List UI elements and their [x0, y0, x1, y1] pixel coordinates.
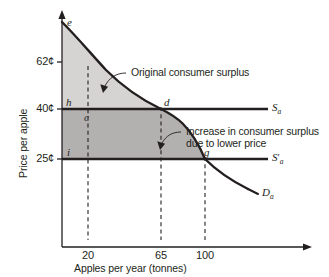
- annotation-increase-surplus: Increase in consumer surplus due to lowe…: [186, 126, 319, 150]
- curve-label-supply-new: S′a: [272, 151, 283, 167]
- y-axis-title: Price per apple: [18, 109, 30, 178]
- supply-new-subscript: a: [280, 157, 284, 166]
- y-tick-label-25: 25¢: [26, 152, 54, 164]
- point-label-h: h: [66, 96, 72, 108]
- annotation-increase-surplus-line2: due to lower price: [186, 138, 319, 150]
- x-axis-title: Apples per year (tonnes): [74, 263, 187, 275]
- annotation-original-surplus: Original consumer surplus: [131, 67, 249, 79]
- economics-figure: 62¢ 40¢ 25¢ Price per apple 20 65 100 Ap…: [0, 0, 329, 277]
- curve-label-demand: Da: [262, 186, 274, 202]
- y-axis-arrowhead: [58, 10, 65, 19]
- y-tick-label-62: 62¢: [26, 55, 54, 67]
- demand-letter: D: [262, 186, 270, 198]
- x-axis-arrowhead: [303, 243, 312, 250]
- x-tick-label-100: 100: [189, 249, 221, 261]
- x-tick-label-65: 65: [146, 249, 176, 261]
- demand-label-leader: [248, 189, 258, 194]
- point-label-d: d: [164, 96, 170, 108]
- supply-original-subscript: a: [278, 107, 282, 116]
- demand-subscript: a: [270, 192, 274, 201]
- x-tick-label-20: 20: [73, 249, 103, 261]
- point-label-i: i: [67, 146, 70, 158]
- point-label-c: c: [84, 111, 89, 123]
- y-tick-label-40: 40¢: [26, 102, 54, 114]
- curve-label-supply-original: Sa: [272, 101, 281, 117]
- annotation-increase-surplus-line1: Increase in consumer surplus: [186, 126, 319, 138]
- point-label-e: e: [67, 16, 72, 28]
